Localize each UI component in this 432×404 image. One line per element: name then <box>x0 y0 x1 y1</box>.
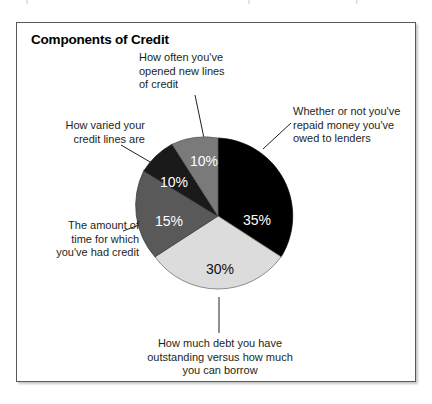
callout-time: The amount of time for which you've had … <box>25 219 139 260</box>
callout-new-lines: How often you've opened new lines of cre… <box>139 51 257 92</box>
pie-value-time: 15% <box>155 213 183 229</box>
leader-line-new-lines <box>195 95 205 143</box>
callout-varied: How varied your credit lines are <box>27 119 145 146</box>
pie-value-debt: 30% <box>206 261 234 277</box>
pie-value-new-lines: 10% <box>190 153 218 169</box>
figure-frame: Components of Credit <box>16 22 416 382</box>
pie-value-varied: 10% <box>160 174 188 190</box>
callout-repaid: Whether or not you've repaid money you'v… <box>293 105 417 146</box>
callout-debt: How much debt you have outstanding versu… <box>127 337 313 378</box>
leader-line-repaid <box>263 123 291 149</box>
pie-value-repaid: 35% <box>243 212 271 228</box>
pie-chart: 35% 30% 15% 10% 10% How often you've ope… <box>17 23 417 383</box>
figure-stage: · · |· · · · · · · · · · · · · · · · · |… <box>0 0 432 404</box>
clipped-body-text: · · |· · · · · · · · · · · · · · · · · |… <box>0 0 432 4</box>
